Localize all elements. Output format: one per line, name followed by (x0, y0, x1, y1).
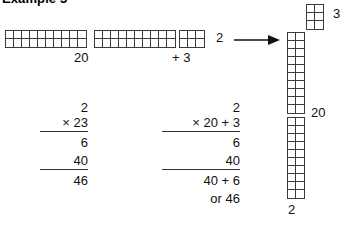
grid-cell (296, 33, 304, 41)
grid-cell (167, 39, 175, 47)
grid-cell (111, 31, 119, 39)
grid-cell (6, 31, 14, 39)
ones-block-vertical (306, 4, 324, 30)
grid-cell (288, 150, 296, 158)
grid-cell (307, 5, 315, 13)
grid-cell (296, 126, 304, 134)
label-tens-vertical: 20 (311, 105, 325, 120)
grid-cell (288, 65, 296, 73)
label-tens: 20 (74, 50, 88, 65)
label-ones: + 3 (172, 50, 190, 65)
grid-cell (30, 31, 38, 39)
grid-cell (103, 39, 111, 47)
grid-cell (296, 49, 304, 57)
grid-cell (288, 57, 296, 65)
grid-cell (288, 158, 296, 166)
grid-cell (288, 81, 296, 89)
grid-cell (159, 39, 167, 47)
right-arrow-icon (234, 33, 282, 47)
grid-cell (95, 39, 103, 47)
calc-left-multiplier: × 23 (40, 115, 88, 132)
grid-cell (196, 31, 204, 39)
grid-cell (315, 13, 323, 21)
grid-cell (307, 21, 315, 29)
grid-cell (46, 31, 54, 39)
grid-cell (151, 31, 159, 39)
grid-cell (288, 166, 296, 174)
grid-cell (307, 13, 315, 21)
grid-cell (30, 39, 38, 47)
grid-cell (296, 158, 304, 166)
grid-cell (288, 105, 296, 113)
grid-cell (127, 31, 135, 39)
grid-cell (135, 31, 143, 39)
grid-cell (159, 31, 167, 39)
grid-cell (288, 174, 296, 182)
grid-cell (296, 118, 304, 126)
calc-right-or-result: or 46 (162, 191, 240, 206)
calc-right-sum-expression: 40 + 6 (162, 173, 240, 188)
grid-cell (111, 39, 119, 47)
grid-cell (38, 39, 46, 47)
tens-block-1 (5, 30, 87, 48)
grid-cell (296, 190, 304, 198)
grid-cell (180, 39, 188, 47)
calc-right-partial-1: 6 (162, 135, 240, 150)
grid-cell (54, 31, 62, 39)
tens-block-vertical-1 (287, 32, 305, 114)
grid-cell (288, 134, 296, 142)
grid-cell (288, 97, 296, 105)
grid-cell (78, 31, 86, 39)
grid-cell (151, 39, 159, 47)
grid-cell (46, 39, 54, 47)
label-width: 2 (288, 202, 295, 217)
grid-cell (78, 39, 86, 47)
page-title: Example 3 (2, 0, 67, 6)
grid-cell (296, 105, 304, 113)
grid-cell (135, 39, 143, 47)
grid-cell (188, 39, 196, 47)
grid-cell (167, 31, 175, 39)
grid-cell (296, 73, 304, 81)
grid-cell (296, 150, 304, 158)
label-ones-vertical: 3 (333, 6, 340, 21)
grid-cell (288, 73, 296, 81)
grid-cell (296, 65, 304, 73)
calc-left-partial-2: 40 (40, 153, 88, 170)
grid-cell (54, 39, 62, 47)
grid-cell (95, 31, 103, 39)
grid-cell (315, 5, 323, 13)
grid-cell (288, 89, 296, 97)
grid-cell (288, 49, 296, 57)
calc-right-partial-2: 40 (162, 153, 240, 170)
grid-cell (296, 166, 304, 174)
grid-cell (288, 41, 296, 49)
grid-cell (296, 81, 304, 89)
grid-cell (14, 31, 22, 39)
grid-cell (315, 21, 323, 29)
grid-cell (127, 39, 135, 47)
grid-cell (296, 57, 304, 65)
grid-cell (119, 39, 127, 47)
ones-block (179, 30, 205, 48)
grid-cell (296, 41, 304, 49)
grid-cell (296, 182, 304, 190)
grid-cell (6, 39, 14, 47)
calculation-standard: 2 × 23 6 40 46 (40, 100, 88, 188)
calc-right-multiplicand: 2 (162, 100, 240, 115)
grid-cell (296, 97, 304, 105)
grid-cell (288, 126, 296, 134)
grid-cell (296, 142, 304, 150)
label-rows-count: 2 (216, 30, 223, 45)
grid-cell (188, 31, 196, 39)
grid-cell (38, 31, 46, 39)
grid-cell (143, 39, 151, 47)
grid-cell (62, 31, 70, 39)
grid-cell (196, 39, 204, 47)
diagram-canvas: Example 3 20 + 3 2 3 20 2 2 × 23 6 40 46… (0, 0, 348, 226)
grid-cell (22, 31, 30, 39)
grid-cell (119, 31, 127, 39)
grid-cell (143, 31, 151, 39)
grid-cell (14, 39, 22, 47)
grid-cell (288, 118, 296, 126)
